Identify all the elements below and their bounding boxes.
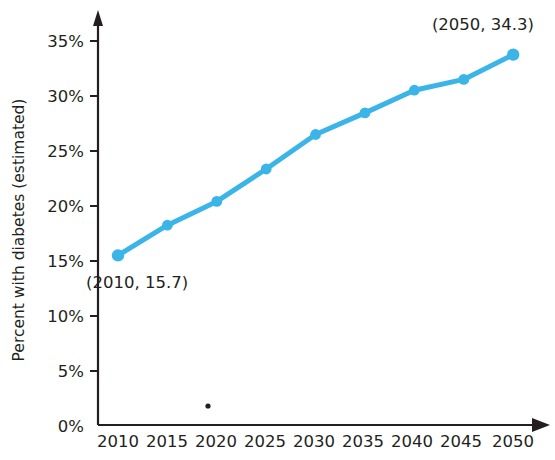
x-tick-label-2050: 2050 xyxy=(492,432,534,451)
data-point-2020 xyxy=(211,196,222,207)
x-axis-arrow-icon xyxy=(532,418,550,432)
annotation-start-point: (2010, 15.7) xyxy=(86,273,188,292)
y-tick-label-25: 25% xyxy=(47,142,84,161)
y-axis-tick-labels: 35% 30% 25% 20% 15% 10% 5% 0% xyxy=(47,32,84,436)
x-tick-label-2030: 2030 xyxy=(293,432,335,451)
scan-speck-artifact xyxy=(205,403,210,408)
x-tick-label-2020: 2020 xyxy=(195,432,237,451)
x-tick-label-2045: 2045 xyxy=(440,432,482,451)
y-tick-label-20: 20% xyxy=(47,197,84,216)
line-chart: 35% 30% 25% 20% 15% 10% 5% 0% 2010 2015 … xyxy=(0,0,555,460)
data-point-2030 xyxy=(310,129,321,140)
x-axis xyxy=(98,418,550,432)
series-line xyxy=(118,55,513,256)
data-point-2045 xyxy=(458,74,469,85)
x-tick-label-2010: 2010 xyxy=(97,432,139,451)
x-tick-label-2035: 2035 xyxy=(342,432,384,451)
x-axis-tick-labels: 2010 2015 2020 2025 2030 2035 2040 2045 … xyxy=(97,432,534,451)
y-tick-label-35: 35% xyxy=(47,32,84,51)
x-tick-label-2015: 2015 xyxy=(146,432,188,451)
data-point-2035 xyxy=(360,108,371,119)
y-tick-label-10: 10% xyxy=(47,307,84,326)
x-tick-label-2025: 2025 xyxy=(244,432,286,451)
y-axis xyxy=(93,10,103,425)
data-point-2025 xyxy=(261,164,272,175)
data-point-2010 xyxy=(112,249,124,261)
x-tick-label-2040: 2040 xyxy=(391,432,433,451)
data-point-2040 xyxy=(409,85,420,96)
y-tick-label-5: 5% xyxy=(58,362,84,381)
y-tick-label-30: 30% xyxy=(47,87,84,106)
y-axis-arrow-icon xyxy=(93,10,103,26)
y-tick-label-15: 15% xyxy=(47,252,84,271)
data-point-2050 xyxy=(507,48,519,60)
annotation-end-point: (2050, 34.3) xyxy=(432,15,534,34)
y-axis-ticks xyxy=(90,41,98,371)
data-point-2015 xyxy=(162,220,173,231)
y-tick-label-0: 0% xyxy=(58,417,84,436)
y-axis-title: Percent with diabetes (estimated) xyxy=(10,99,28,362)
chart-page: 35% 30% 25% 20% 15% 10% 5% 0% 2010 2015 … xyxy=(0,0,555,460)
